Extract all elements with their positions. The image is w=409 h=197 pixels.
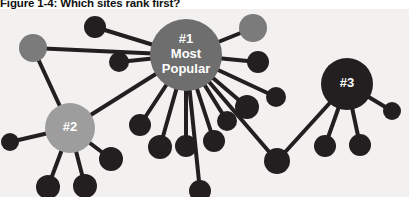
- hub-label-line: #3: [340, 75, 354, 90]
- graph-node[interactable]: [129, 114, 151, 136]
- graph-node[interactable]: [99, 147, 123, 171]
- hub-label-line: Popular: [162, 61, 210, 76]
- graph-hub-rank-2[interactable]: #2: [45, 103, 95, 153]
- graph-node[interactable]: [1, 133, 19, 151]
- hub-label-line: #1: [179, 31, 193, 46]
- graph-node[interactable]: [239, 14, 267, 42]
- graph-node[interactable]: [148, 135, 172, 159]
- graph-node[interactable]: [84, 16, 106, 38]
- graph-node[interactable]: [175, 135, 197, 157]
- graph-node[interactable]: [73, 174, 97, 197]
- network-graph-svg: #1MostPopular#2#3: [0, 9, 409, 197]
- graph-node[interactable]: [266, 87, 286, 107]
- hub-label-line: Most: [171, 46, 202, 61]
- graph-node[interactable]: [109, 52, 129, 72]
- graph-node[interactable]: [189, 180, 211, 197]
- hub-label-line: #2: [63, 119, 77, 134]
- graph-node[interactable]: [19, 34, 47, 62]
- graph-hub-rank-3[interactable]: #3: [321, 58, 373, 110]
- graph-node[interactable]: [203, 130, 225, 152]
- figure-container: Figure 1-4: Which sites rank first? #1Mo…: [0, 0, 409, 197]
- graph-node[interactable]: [349, 134, 371, 156]
- graph-node[interactable]: [217, 111, 237, 131]
- network-diagram-panel: #1MostPopular#2#3: [0, 9, 409, 197]
- graph-node[interactable]: [314, 135, 336, 157]
- graph-node[interactable]: [36, 175, 60, 197]
- graph-node[interactable]: [264, 148, 290, 174]
- graph-node[interactable]: [383, 102, 401, 120]
- graph-node[interactable]: [235, 95, 259, 119]
- graph-hub-rank-1[interactable]: #1MostPopular: [150, 19, 222, 91]
- graph-node[interactable]: [247, 51, 269, 73]
